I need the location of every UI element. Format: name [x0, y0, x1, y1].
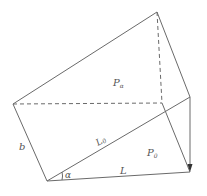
- right-upper-edge: [157, 12, 190, 97]
- label-p-zero: P0: [146, 147, 158, 159]
- diagram-canvas: Pα P0 L0 b α L: [0, 0, 207, 196]
- angle-arc: [62, 172, 63, 180]
- hidden-vertical-edge: [157, 12, 162, 103]
- top-edge: [13, 12, 157, 104]
- label-p-alpha: Pα: [112, 77, 124, 89]
- diagonal-l0: [47, 97, 190, 181]
- label-l: L: [119, 165, 127, 176]
- inner-slant-edge: [162, 103, 190, 172]
- hidden-horizontal-edge: [13, 103, 162, 104]
- label-b: b: [19, 141, 25, 152]
- label-alpha: α: [65, 170, 71, 180]
